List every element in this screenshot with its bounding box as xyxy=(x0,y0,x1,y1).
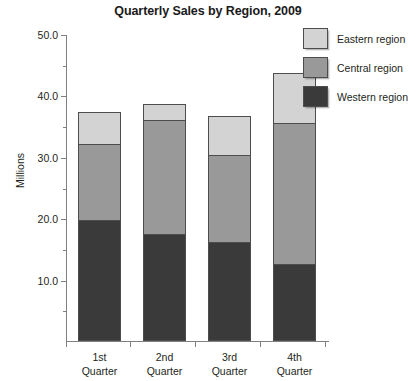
x-axis-tick xyxy=(325,342,326,347)
bar-stack xyxy=(143,104,186,341)
y-axis-tick-label: 30.0 xyxy=(38,152,58,164)
y-axis-tick-label: 40.0 xyxy=(38,90,58,102)
bar-segment[interactable] xyxy=(143,234,186,341)
chart-title: Quarterly Sales by Region, 2009 xyxy=(0,4,416,18)
bar-segment[interactable] xyxy=(208,155,251,243)
legend-swatch xyxy=(303,86,328,107)
x-axis-line xyxy=(66,341,329,342)
bar-stack xyxy=(78,112,121,341)
y-axis-minor-tick xyxy=(63,189,66,190)
bar-segment[interactable] xyxy=(78,112,121,145)
bar-segment[interactable] xyxy=(208,242,251,341)
y-axis-tick xyxy=(61,219,66,220)
legend-item[interactable]: Western region xyxy=(303,86,408,107)
plot-area: 10.020.030.040.050.0 1stQuarter2ndQuarte… xyxy=(66,35,329,342)
y-axis-tick xyxy=(61,35,66,36)
y-axis-minor-tick xyxy=(63,311,66,312)
y-axis-tick-label: 50.0 xyxy=(38,29,58,41)
chart-legend: Eastern regionCentral regionWestern regi… xyxy=(303,28,408,107)
bar-segment[interactable] xyxy=(143,104,186,122)
y-axis-minor-tick xyxy=(63,66,66,67)
x-axis-tick-label: 4thQuarter xyxy=(250,350,340,378)
y-axis-minor-tick xyxy=(63,127,66,128)
y-axis-tick-label: 10.0 xyxy=(38,275,58,287)
legend-label: Central region xyxy=(337,62,403,74)
x-axis-tick xyxy=(195,342,196,347)
bar-group[interactable] xyxy=(143,104,186,341)
bar-segment[interactable] xyxy=(78,144,121,221)
bar-group[interactable] xyxy=(78,112,121,341)
bar-group[interactable] xyxy=(273,73,316,341)
legend-item[interactable]: Eastern region xyxy=(303,28,408,49)
x-axis-tick xyxy=(66,342,67,347)
bar-segment[interactable] xyxy=(78,220,121,341)
chart-container: Quarterly Sales by Region, 2009 Millions… xyxy=(0,0,416,381)
legend-item[interactable]: Central region xyxy=(303,57,408,78)
bar-group[interactable] xyxy=(208,116,251,341)
x-axis-tick xyxy=(130,342,131,347)
y-axis-tick-label: 20.0 xyxy=(38,213,58,225)
y-axis-title: Millions xyxy=(14,153,26,188)
legend-label: Eastern region xyxy=(337,33,405,45)
y-axis-minor-tick xyxy=(63,250,66,251)
legend-swatch xyxy=(303,28,328,49)
bar-stack xyxy=(273,73,316,341)
x-axis-tick xyxy=(260,342,261,347)
legend-swatch xyxy=(303,57,328,78)
bar-segment[interactable] xyxy=(273,123,316,265)
x-axis-tick-label-line: Quarter xyxy=(250,364,340,378)
y-axis-tick xyxy=(61,158,66,159)
y-axis-line xyxy=(66,35,67,342)
bar-segment[interactable] xyxy=(208,116,251,156)
bar-segment[interactable] xyxy=(273,264,316,341)
bar-segment[interactable] xyxy=(143,120,186,234)
legend-label: Western region xyxy=(337,91,408,103)
y-axis-tick xyxy=(61,281,66,282)
bar-stack xyxy=(208,116,251,341)
x-axis-tick-label-line: 4th xyxy=(250,350,340,364)
y-axis-tick xyxy=(61,96,66,97)
